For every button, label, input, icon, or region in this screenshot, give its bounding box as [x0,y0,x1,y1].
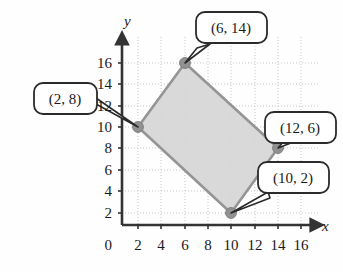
x-tick-label-6: 6 [181,237,189,253]
y-tick-label-12: 12 [97,98,112,114]
leader-6-14 [185,44,210,63]
coordinate-plane-figure: (6, 14) (2, 8) (12, 6) (10, 2) 2 4 6 8 1… [0,0,343,272]
x-tick-label-2: 2 [134,237,142,253]
y-tick-label-8: 8 [105,140,113,156]
callout-label-6-14: (6, 14) [211,20,251,37]
callout-label-12-6: (12, 6) [280,120,320,137]
y-tick-label-4: 4 [105,183,113,199]
callout-label-10-2: (10, 2) [273,170,313,187]
y-tick-label-6: 6 [105,162,113,178]
x-tick-label-12: 12 [248,237,263,253]
y-tick-labels: 2 4 6 8 10 12 14 16 [97,55,113,221]
x-tick-label-4: 4 [157,237,165,253]
y-tick-label-2: 2 [105,205,113,221]
x-tick-label-10: 10 [224,237,239,253]
y-tick-label-10: 10 [97,119,112,135]
y-tick-label-16: 16 [97,55,113,71]
x-tick-label-14: 14 [271,237,287,253]
x-tick-labels: 2 4 6 8 10 12 14 16 [134,237,309,253]
x-tick-label-16: 16 [294,237,310,253]
x-tick-label-8: 8 [204,237,212,253]
origin-label: 0 [105,237,113,253]
y-axis-label: y [122,13,131,29]
callout-label-2-8: (2, 8) [49,91,82,108]
x-axis-label: x [321,218,329,234]
chart-canvas: (6, 14) (2, 8) (12, 6) (10, 2) 2 4 6 8 1… [0,0,343,272]
y-tick-label-14: 14 [97,76,113,92]
